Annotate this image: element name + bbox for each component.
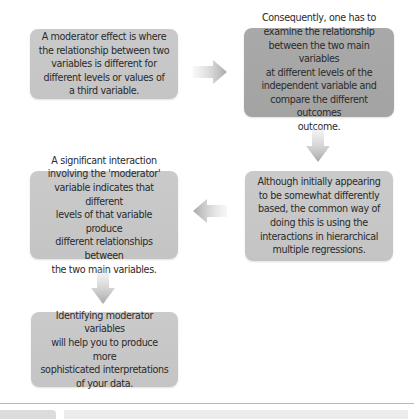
flow-box-text: A significant interaction involving the … — [38, 154, 170, 276]
flow-box-text: Although initially appearing to be somew… — [258, 175, 381, 257]
flow-box-significant-interaction: A significant interaction involving the … — [30, 171, 178, 259]
flow-box-text: A moderator effect is where the relation… — [39, 30, 169, 98]
divider-line — [0, 403, 414, 404]
footer-tab — [0, 410, 56, 419]
flow-box-text: Identifying moderator variables will hel… — [39, 309, 170, 391]
flow-box-examine-relationship: Consequently, one has to examine the rel… — [244, 28, 394, 117]
flow-box-hierarchical-regression: Although initially appearing to be somew… — [245, 171, 393, 261]
arrow-left-icon — [193, 199, 227, 223]
flow-box-moderator-definition: A moderator effect is where the relation… — [30, 29, 178, 99]
flow-box-identifying-moderators: Identifying moderator variables will hel… — [31, 312, 178, 387]
flow-box-text: Consequently, one has to examine the rel… — [252, 11, 386, 133]
arrow-down-icon — [91, 268, 115, 304]
footer-bar — [64, 410, 408, 419]
arrow-right-icon — [193, 60, 227, 84]
arrow-down-icon — [306, 126, 330, 162]
